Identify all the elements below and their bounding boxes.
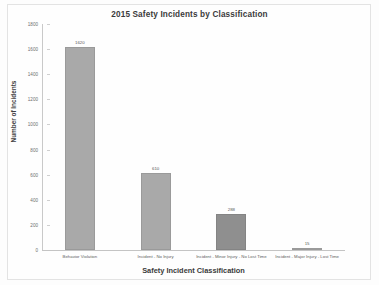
x-category-label: Incident - Minor Injury - No Lost Time	[196, 254, 266, 259]
chart-title: 2015 Safety Incidents by Classification	[0, 10, 379, 19]
bar[interactable]	[292, 248, 322, 250]
x-category-label: Incident - Major Injury - Lost Time	[275, 254, 339, 259]
bar[interactable]	[65, 47, 95, 250]
x-category-label: Behavior Violation	[63, 254, 98, 259]
chart-container: 2015 Safety Incidents by Classification …	[0, 0, 379, 285]
y-tick-label: 400	[12, 197, 38, 202]
x-axis-line	[42, 250, 345, 251]
bar[interactable]	[216, 214, 246, 250]
bar-value-label: 1620	[75, 40, 85, 45]
y-axis-title: Number of Incidents	[10, 52, 17, 172]
bar[interactable]	[141, 173, 171, 250]
y-tick-label: 200	[12, 222, 38, 227]
y-tick-label: 1800	[12, 22, 38, 27]
bar-value-label: 610	[152, 166, 159, 171]
bar-value-label: 288	[228, 207, 235, 212]
y-tick-label: 0	[12, 248, 38, 253]
y-tick-label: 600	[12, 172, 38, 177]
bar-value-label: 15	[305, 241, 310, 246]
x-axis-title: Safety Incident Classification	[42, 266, 345, 275]
x-category-label: Incident - No Injury	[138, 254, 174, 259]
